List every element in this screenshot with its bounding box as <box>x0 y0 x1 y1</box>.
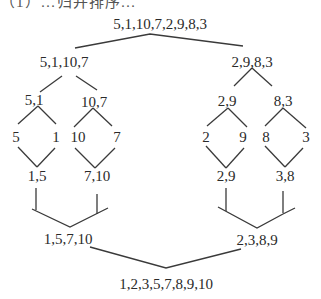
final-merge-lines <box>90 247 241 268</box>
node-right: 2,9,8,3 <box>231 54 272 70</box>
leaf-node: 2 <box>202 129 210 145</box>
node-rr: 8,3 <box>274 93 293 109</box>
leaf-node: 5 <box>12 129 20 145</box>
leaf-node: 3 <box>302 129 310 145</box>
edge <box>37 148 55 167</box>
merged-node-ll: 1,5 <box>28 168 47 184</box>
edge <box>234 68 252 86</box>
edge <box>265 108 283 126</box>
edge <box>207 108 228 126</box>
edge <box>76 76 97 90</box>
root-node: 5,1,10,7,2,9,8,3 <box>113 16 207 32</box>
edge <box>252 68 272 86</box>
edge <box>265 146 285 167</box>
edge <box>206 146 226 168</box>
edge <box>18 147 37 167</box>
edge <box>38 106 56 124</box>
sorted-result: 1,2,3,5,7,8,9,10 <box>119 276 213 292</box>
merge-sort-diagram: （1）…归并排序… 5,1,10,7,2,9,8,3 5,1,10,7 2,9,… <box>0 0 321 299</box>
edge <box>226 148 244 168</box>
connector-lines <box>0 0 321 299</box>
leaf-node: 1 <box>52 129 60 145</box>
merged-node-left: 1,5,7,10 <box>44 231 93 247</box>
leaf-node: 9 <box>239 129 247 145</box>
edge <box>95 148 115 168</box>
edge <box>285 148 303 167</box>
edge <box>75 148 95 168</box>
leaf-node: 7 <box>113 129 121 145</box>
leaf-node: 10 <box>71 129 86 145</box>
edge <box>40 76 62 92</box>
edge <box>93 108 112 126</box>
edge <box>228 108 247 127</box>
merged-node-lr: 7,10 <box>84 168 110 184</box>
merged-node-rl: 2,9 <box>217 168 236 184</box>
node-rl: 2,9 <box>218 93 237 109</box>
leaf-node: 8 <box>262 129 270 145</box>
node-lr: 10,7 <box>81 94 107 110</box>
root-split-lines <box>75 34 243 48</box>
edge <box>283 108 306 128</box>
merged-node-right: 2,3,8,9 <box>236 232 277 248</box>
cropped-caption: （1）…归并排序… <box>0 0 137 11</box>
edge <box>74 108 93 127</box>
merged-node-rr: 3,8 <box>276 168 295 184</box>
edge <box>18 106 38 124</box>
node-ll: 5,1 <box>25 92 44 108</box>
node-left: 5,1,10,7 <box>40 54 89 70</box>
